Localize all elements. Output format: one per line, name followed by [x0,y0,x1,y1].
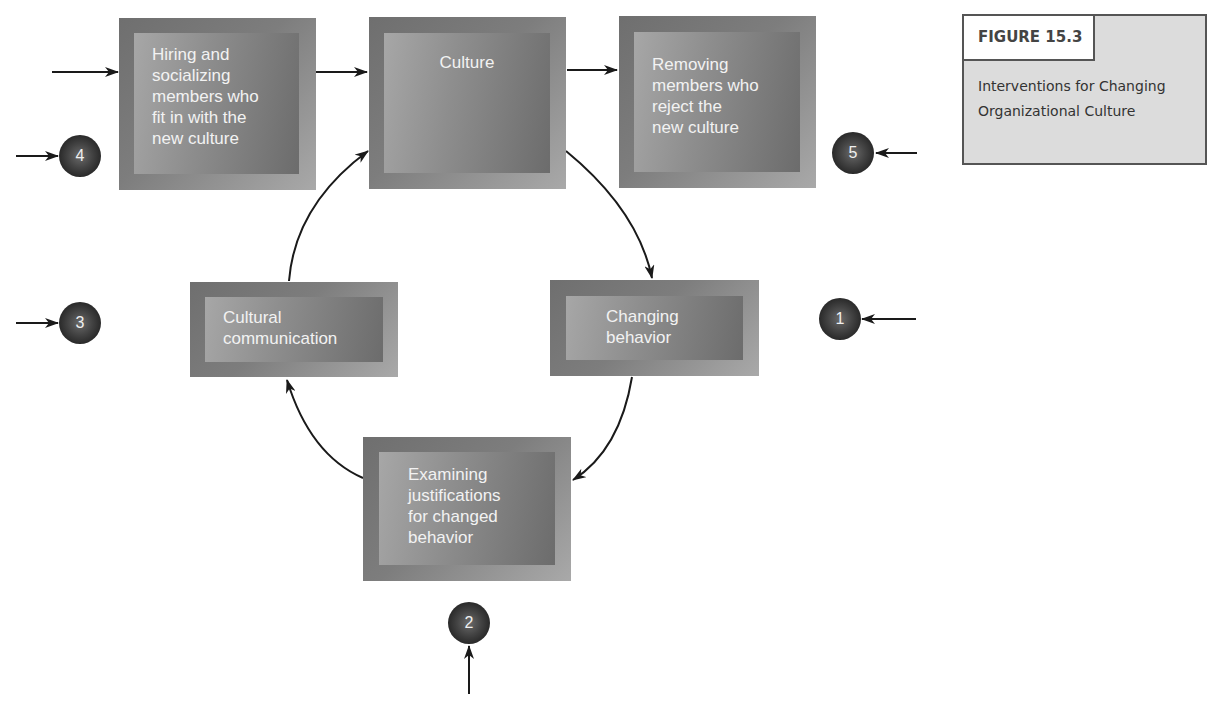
figure-title: Interventions for Changing Organizationa… [978,74,1197,124]
intervention-marker-4: 4 [59,135,101,177]
marker-4-number: 4 [76,147,85,164]
figure-number: FIGURE 15.3 [962,14,1095,61]
marker-2-number: 2 [465,614,474,631]
node-changing-behavior-label: Changing behavior [606,306,743,348]
node-hiring: Hiring and socializing members who fit i… [119,18,316,190]
intervention-marker-2: 2 [448,602,490,644]
node-removing-label: Removing members who reject the new cult… [652,54,800,138]
figure-caption-box: FIGURE 15.3 Interventions for Changing O… [962,14,1207,165]
node-culture: Culture [369,17,566,189]
marker-3-number: 3 [76,314,85,331]
node-cultural-communication-label: Cultural communication [223,307,383,349]
diagram-canvas: Hiring and socializing members who fit i… [0,0,1215,702]
marker-1-number: 1 [836,310,845,327]
node-removing: Removing members who reject the new cult… [619,16,816,188]
node-cultural-communication: Cultural communication [190,282,398,377]
node-culture-label: Culture [384,52,550,73]
marker-5-number: 5 [849,144,858,161]
intervention-marker-3: 3 [59,302,101,344]
intervention-marker-5: 5 [832,132,874,174]
node-examining-label: Examining justifications for changed beh… [408,464,555,548]
node-examining: Examining justifications for changed beh… [363,437,571,581]
node-hiring-label: Hiring and socializing members who fit i… [152,44,299,149]
node-changing-behavior: Changing behavior [550,280,759,376]
intervention-marker-1: 1 [819,298,861,340]
